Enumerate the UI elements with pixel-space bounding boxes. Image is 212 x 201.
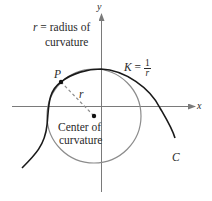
point-p-label: P	[54, 68, 61, 80]
y-axis-label: y	[97, 1, 101, 13]
radius-definition-line2: curvature	[45, 36, 88, 48]
radius-line	[61, 82, 94, 116]
point-p	[59, 80, 63, 84]
center-label-line1: Center of	[58, 121, 101, 133]
curvature-equals: =	[132, 61, 144, 73]
center-label-line2: curvature	[59, 134, 102, 146]
radius-label: r	[79, 88, 83, 100]
radius-def-text: = radius of	[37, 21, 90, 33]
center-point	[92, 114, 96, 118]
curve-c	[22, 69, 175, 168]
diagram-canvas	[0, 0, 212, 201]
curvature-fraction: 1r	[144, 59, 151, 78]
radius-definition: r = radius of	[33, 21, 90, 33]
curvature-diagram: y x r = radius of curvature P r K = 1r C…	[0, 0, 212, 201]
curvature-formula: K = 1r	[124, 59, 151, 78]
curvature-k: K	[124, 61, 132, 73]
x-axis-label: x	[197, 100, 201, 112]
curve-c-label: C	[172, 151, 180, 163]
fraction-denominator: r	[144, 69, 151, 78]
